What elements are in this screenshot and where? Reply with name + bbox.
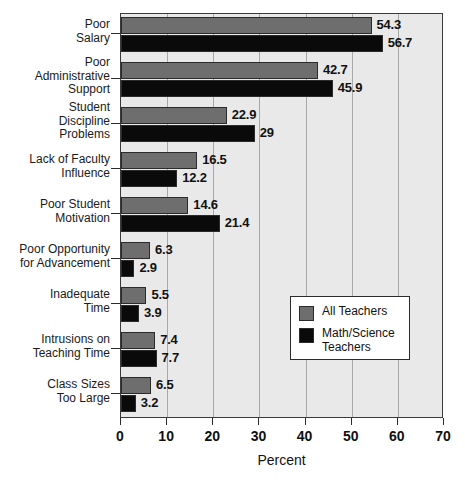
x-axis-tick-mark <box>443 418 444 425</box>
x-axis-tick-label: 40 <box>285 428 325 444</box>
x-axis-tick-label: 10 <box>146 428 186 444</box>
x-axis-tick-label: 50 <box>331 428 371 444</box>
x-axis-tick-mark <box>258 418 259 425</box>
x-axis-tick-label: 30 <box>238 428 278 444</box>
legend-entry: Math/Science Teachers <box>299 327 395 354</box>
x-axis-tick-mark <box>397 418 398 425</box>
x-axis-tick-mark <box>351 418 352 425</box>
x-axis-tick-label: 60 <box>377 428 417 444</box>
x-axis-tick-mark <box>166 418 167 425</box>
x-axis-title: Percent <box>120 452 443 468</box>
x-axis-tick-mark <box>120 418 121 425</box>
chart-legend: All TeachersMath/Science Teachers <box>290 296 410 360</box>
x-axis-tick-mark <box>305 418 306 425</box>
x-axis-tick-label: 20 <box>192 428 232 444</box>
legend-swatch <box>299 306 314 321</box>
legend-entry: All Teachers <box>299 305 387 321</box>
legend-label: Math/Science Teachers <box>322 327 395 354</box>
x-axis-tick-label: 70 <box>423 428 463 444</box>
legend-label: All Teachers <box>322 305 387 319</box>
x-axis-tick-label: 0 <box>100 428 140 444</box>
x-axis: 010203040506070 <box>0 0 465 483</box>
x-axis-tick-mark <box>212 418 213 425</box>
legend-swatch <box>299 328 314 343</box>
horizontal-bar-chart: 54.356.742.745.922.92916.512.214.621.46.… <box>0 0 465 483</box>
